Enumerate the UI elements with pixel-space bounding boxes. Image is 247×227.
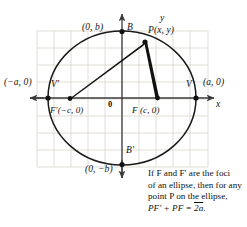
point-b-prime <box>119 162 124 167</box>
figure-caption: If F and F′ are the foci of an ellipse, … <box>148 168 247 214</box>
point-p-label: P(x, y) <box>148 26 174 36</box>
right-vertex-point-label: V <box>186 80 192 90</box>
ellipse-figure: y x 0 (0, b) B B′ (0, −b) (−a, 0) V′ V (… <box>0 0 247 227</box>
left-focus-label: F′(−c, 0) <box>50 106 83 115</box>
point-f <box>155 96 160 101</box>
caption-formula-rhs: 2a <box>194 203 203 213</box>
caption-line-1: If F and F′ are the foci <box>148 168 247 180</box>
caption-formula-lhs: PF′ + PF = <box>148 203 194 213</box>
coordinate-axes <box>30 14 214 178</box>
top-vertex-point-label: B <box>127 23 133 33</box>
x-axis-label: x <box>216 100 220 110</box>
point-v <box>193 95 198 100</box>
segment-pf <box>144 41 159 99</box>
point-v-prime <box>45 95 50 100</box>
right-vertex-coord-label: (a, 0) <box>203 78 224 88</box>
right-focus-label: F (c, 0) <box>132 106 160 115</box>
segment-pf-prime <box>69 41 146 100</box>
caption-line-3: point P on the ellipse, <box>148 191 247 203</box>
caption-line-4: PF′ + PF = 2a. <box>148 203 247 215</box>
focal-radii <box>69 41 159 101</box>
origin-label: 0 <box>108 100 112 109</box>
left-vertex-point-label: V′ <box>51 80 59 90</box>
left-vertex-coord-label: (−a, 0) <box>4 78 32 88</box>
point-b <box>119 29 124 34</box>
point-f-prime <box>68 96 73 101</box>
y-axis-label: y <box>160 14 164 24</box>
top-vertex-coord-label: (0, b) <box>82 23 103 33</box>
caption-formula-period: . <box>203 203 205 213</box>
bottom-vertex-coord-label: (0, −b) <box>85 165 113 175</box>
bottom-vertex-point-label: B′ <box>126 146 134 156</box>
caption-line-2: of an ellipse, then for any <box>148 180 247 192</box>
point-p <box>142 39 147 44</box>
